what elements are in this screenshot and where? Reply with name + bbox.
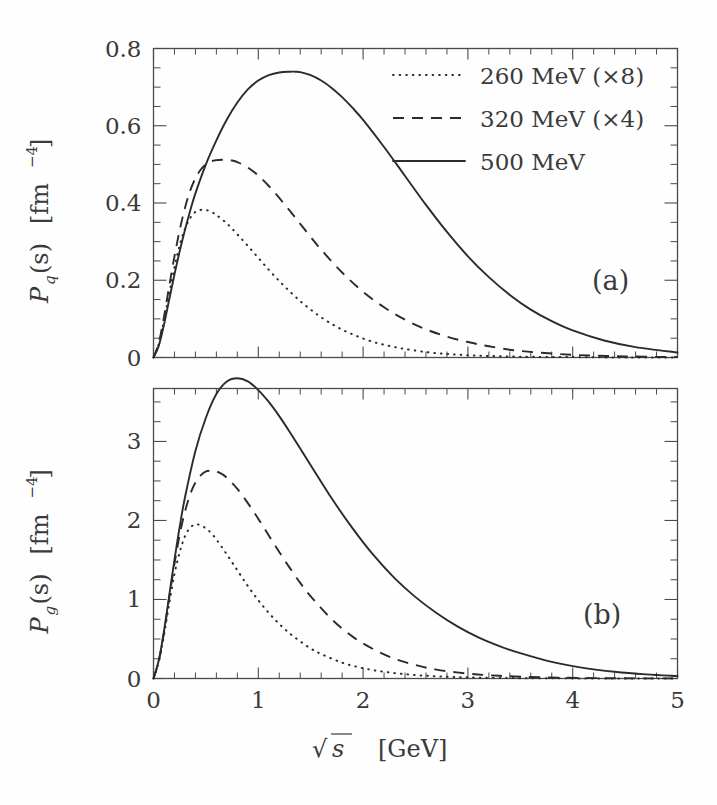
- ylabel-unit-open: [fm: [26, 513, 54, 554]
- xtick-label: 1: [251, 687, 266, 713]
- ylabel-symbol: P: [26, 286, 54, 304]
- xtick-label: 5: [670, 687, 685, 713]
- ytick-label-b: 1: [127, 586, 142, 612]
- xtick-label: 3: [461, 687, 476, 713]
- ylabel-argument: (s): [26, 243, 54, 274]
- ylabel-symbol: P: [26, 617, 54, 635]
- curve-b-dashed: [154, 471, 678, 679]
- panel-b: [154, 378, 678, 678]
- plot-frame-a: [154, 49, 678, 358]
- ytick-label-a: 0.8: [105, 36, 142, 62]
- ylabel-argument: (s): [26, 573, 54, 604]
- ytick-label-a: 0.6: [105, 113, 142, 139]
- plot-frame-b: [154, 389, 678, 679]
- physics-distribution-chart: 00.20.40.60.80123012345√s[GeV]Pq(s)[fm−4…: [0, 0, 717, 805]
- ytick-label-a: 0: [127, 345, 142, 371]
- panel-a: [154, 49, 678, 358]
- panel-label-b: (b): [583, 599, 621, 630]
- legend-item: 260 MeV (×8): [393, 63, 644, 89]
- curve-b-solid: [154, 378, 678, 678]
- figure-container: 00.20.40.60.80123012345√s[GeV]Pq(s)[fm−4…: [0, 0, 717, 805]
- xtick-label: 2: [356, 687, 371, 713]
- legend-label: 320 MeV (×4): [480, 106, 644, 132]
- legend: 260 MeV (×8)320 MeV (×4)500 MeV: [393, 63, 644, 175]
- ytick-label-b: 0: [127, 666, 142, 692]
- xtick-label: 4: [565, 687, 580, 713]
- ytick-label-a: 0.2: [105, 267, 142, 293]
- legend-label: 500 MeV: [480, 149, 585, 175]
- ytick-label-b: 3: [127, 428, 142, 454]
- legend-item: 500 MeV: [393, 149, 585, 175]
- panel-label-a: (a): [592, 265, 629, 296]
- ylabel-unit-exponent: −4: [23, 146, 41, 168]
- ylabel-unit-exponent: −4: [23, 476, 41, 498]
- ytick-label-b: 2: [127, 507, 142, 533]
- legend-label: 260 MeV (×8): [480, 63, 644, 89]
- x-axis-unit: [GeV]: [378, 735, 447, 763]
- legend-item: 320 MeV (×4): [393, 106, 644, 132]
- y-axis-label-a: Pq(s)[fm−4]: [23, 139, 59, 304]
- ylabel-unit-open: [fm: [26, 183, 54, 224]
- sqrt-symbol: √: [312, 735, 328, 763]
- ylabel-unit-close: ]: [26, 469, 54, 478]
- ylabel-subscript: g: [41, 606, 59, 616]
- ylabel-subscript: q: [41, 275, 59, 285]
- y-axis-label-b: Pg(s)[fm−4]: [23, 469, 59, 634]
- sqrt-variable: s: [332, 735, 344, 763]
- ytick-label-a: 0.4: [105, 190, 142, 216]
- xtick-label: 0: [146, 687, 161, 713]
- x-axis-label: √s[GeV]: [312, 734, 447, 763]
- ylabel-unit-close: ]: [26, 139, 54, 148]
